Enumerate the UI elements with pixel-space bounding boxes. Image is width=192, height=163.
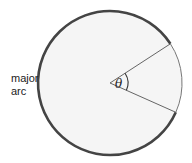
major-arc-label-line1: major	[11, 72, 39, 85]
major-arc-label: major arc	[11, 72, 39, 98]
angle-theta-label: θ	[115, 77, 123, 91]
major-arc-label-line2: arc	[11, 85, 39, 98]
